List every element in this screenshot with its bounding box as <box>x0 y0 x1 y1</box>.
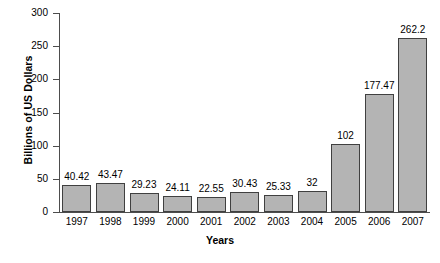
y-axis-tick-label: 150 <box>8 108 48 118</box>
y-axis-tick-label: 200 <box>8 74 48 84</box>
bar <box>197 197 226 212</box>
bar <box>62 185 91 212</box>
bar <box>130 193 159 212</box>
y-axis-tick <box>53 46 60 47</box>
bar <box>398 38 427 212</box>
bar <box>331 144 360 212</box>
x-axis-tick-label: 2007 <box>396 217 430 227</box>
bar <box>230 192 259 212</box>
x-axis-tick-label: 2002 <box>228 217 262 227</box>
bar <box>298 191 327 212</box>
bar <box>264 195 293 212</box>
y-axis-tick-label: 250 <box>8 41 48 51</box>
y-axis-tick <box>53 146 60 147</box>
bar-value-label: 177.47 <box>356 81 402 91</box>
bar-chart: Billions of US Dollars 05010015020025030… <box>0 0 440 263</box>
y-axis-tick-label: 50 <box>8 174 48 184</box>
x-axis-tick-label: 2001 <box>194 217 228 227</box>
y-axis-tick-label: 100 <box>8 141 48 151</box>
x-axis-tick-label: 1997 <box>60 217 94 227</box>
x-axis-tick-label: 1999 <box>127 217 161 227</box>
y-axis-tick <box>53 113 60 114</box>
bar-value-label: 262.2 <box>390 25 436 35</box>
x-axis-tick-label: 2000 <box>161 217 195 227</box>
bar <box>365 94 394 212</box>
bar <box>163 196 192 212</box>
bar-value-label: 102 <box>323 131 369 141</box>
y-axis-tick-label: 0 <box>8 207 48 217</box>
x-axis-tick-label: 2003 <box>262 217 296 227</box>
x-axis-line <box>59 212 430 213</box>
y-axis-tick <box>53 212 60 213</box>
y-axis-tick-label: 300 <box>8 8 48 18</box>
y-axis-tick <box>53 79 60 80</box>
y-axis-tick <box>53 13 60 14</box>
x-axis-tick-label: 2006 <box>362 217 396 227</box>
x-axis-tick-label: 1998 <box>94 217 128 227</box>
x-axis-tick-label: 2004 <box>295 217 329 227</box>
x-axis-tick-label: 2005 <box>329 217 363 227</box>
bar-value-label: 32 <box>289 178 335 188</box>
x-axis-title: Years <box>0 234 440 246</box>
